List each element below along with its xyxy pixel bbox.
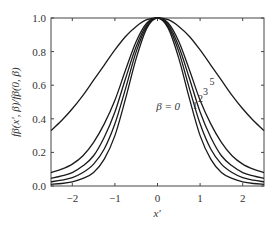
x-tick-label: 2 bbox=[240, 192, 246, 204]
y-tick-label: 0.6 bbox=[32, 79, 46, 91]
y-axis: 0.00.20.40.60.81.0 bbox=[32, 12, 264, 192]
x-axis-label: x' bbox=[152, 207, 161, 219]
x-tick-label: 1 bbox=[197, 192, 203, 204]
curve-label: 5 bbox=[209, 76, 214, 87]
curve-label: β = 0 bbox=[155, 100, 180, 112]
x-tick-label: 0 bbox=[155, 192, 161, 204]
y-tick-label: 1.0 bbox=[32, 12, 46, 24]
x-tick-label: −1 bbox=[109, 192, 121, 204]
curve-label: 1 bbox=[192, 100, 197, 111]
curve-5 bbox=[51, 18, 264, 131]
y-tick-label: 0.8 bbox=[32, 46, 46, 58]
curve-label: 3 bbox=[203, 86, 208, 97]
y-tick-label: 0.0 bbox=[32, 180, 46, 192]
x-tick-label: −2 bbox=[66, 192, 78, 204]
y-tick-label: 0.2 bbox=[32, 146, 46, 158]
curve-2 bbox=[51, 18, 264, 178]
y-axis-label: fβ(x', β)/fβ(0, β) bbox=[9, 67, 22, 137]
y-tick-label: 0.4 bbox=[32, 113, 46, 125]
chart: 0.00.20.40.60.81.0 −2−1012 β = 01235 x' … bbox=[0, 0, 280, 225]
